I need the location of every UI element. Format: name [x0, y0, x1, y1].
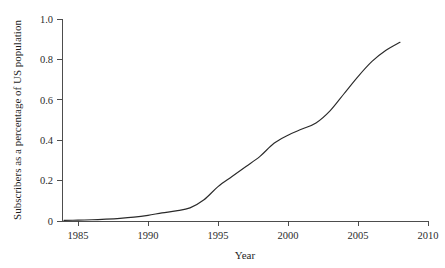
x-tick-label-2010: 2010 [418, 230, 439, 241]
x-axis-ticks [78, 221, 428, 226]
y-tick-label-08: 0.8 [40, 54, 53, 65]
y-tick-label-02: 0.2 [40, 175, 53, 186]
y-tick-label-04: 0.4 [40, 135, 54, 146]
y-tick-label-06: 0.6 [40, 95, 53, 106]
x-tick-label-2005: 2005 [348, 230, 369, 241]
y-tick-label-1: 1.0 [40, 14, 53, 25]
x-axis-title: Year [235, 249, 256, 261]
x-tick-label-2000: 2000 [278, 230, 299, 241]
y-axis-title: Subscribers as a percentage of US popula… [11, 20, 23, 220]
y-tick-label-0: 0 [48, 216, 53, 227]
x-tick-label-1990: 1990 [138, 230, 159, 241]
x-tick-label-1995: 1995 [208, 230, 229, 241]
chart-figure: 1.0 0.8 0.6 0.4 0.2 0 1985 1990 1995 200… [0, 0, 445, 268]
data-series-line [64, 42, 400, 220]
line-chart-svg: 1.0 0.8 0.6 0.4 0.2 0 1985 1990 1995 200… [0, 0, 445, 268]
x-tick-label-1985: 1985 [68, 230, 89, 241]
y-axis-ticks [57, 19, 62, 221]
